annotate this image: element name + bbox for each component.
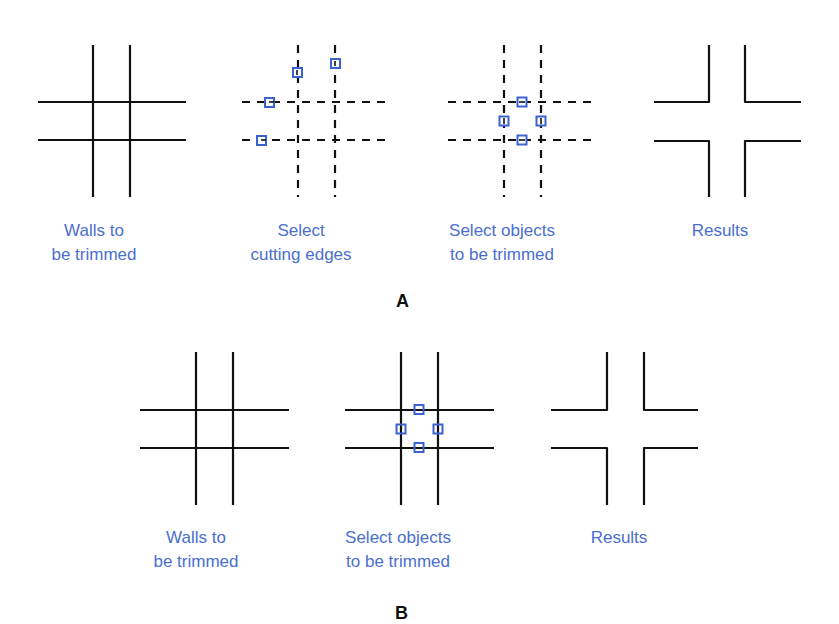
a-results-drawing xyxy=(654,45,801,197)
b-results-drawing xyxy=(551,352,698,505)
a-cutting-edges-drawing xyxy=(242,45,392,197)
label-line: be trimmed xyxy=(34,243,154,267)
label-line: Results xyxy=(569,526,669,550)
b-walls-drawing xyxy=(140,352,289,505)
b-walls-label: Walls to be trimmed xyxy=(136,526,256,574)
label-line: Walls to xyxy=(34,219,154,243)
label-line: Select objects xyxy=(328,526,468,550)
label-line: cutting edges xyxy=(236,243,366,267)
b-objects-pick-boxes xyxy=(397,405,443,452)
label-line: be trimmed xyxy=(136,550,256,574)
label-line: to be trimmed xyxy=(432,243,572,267)
a-results-label: Results xyxy=(670,219,770,243)
b-objects-label: Select objects to be trimmed xyxy=(328,526,468,574)
a-objects-drawing xyxy=(448,45,598,197)
a-walls-drawing xyxy=(38,45,186,197)
label-line: Select xyxy=(236,219,366,243)
a-objects-label: Select objects to be trimmed xyxy=(432,219,572,267)
a-walls-label: Walls to be trimmed xyxy=(34,219,154,267)
label-line: Results xyxy=(670,219,770,243)
label-line: to be trimmed xyxy=(328,550,468,574)
panel-a-letter: A xyxy=(396,291,409,312)
a-objects-pick-boxes xyxy=(500,98,546,145)
label-line: Select objects xyxy=(432,219,572,243)
b-objects-drawing xyxy=(345,352,494,505)
b-results-label: Results xyxy=(569,526,669,550)
label-line: Walls to xyxy=(136,526,256,550)
panel-b-letter: B xyxy=(395,603,408,624)
a-cutting-edges-label: Select cutting edges xyxy=(236,219,366,267)
